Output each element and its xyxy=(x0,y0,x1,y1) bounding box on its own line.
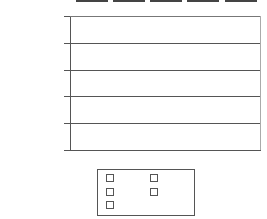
plot-area xyxy=(70,16,261,151)
y-axis-label xyxy=(14,29,32,139)
gridline-60 xyxy=(70,96,260,97)
bar-2003 xyxy=(76,0,108,2)
bar-2007 xyxy=(225,0,257,2)
tick-mark xyxy=(64,150,70,151)
gridline-30 xyxy=(70,123,260,124)
plot-frame-right xyxy=(260,16,261,150)
plot-frame-top xyxy=(70,16,260,17)
legend-swatch xyxy=(150,188,158,196)
bar-2006 xyxy=(187,0,219,2)
legend-item-2003 xyxy=(106,174,120,182)
legend-item-2007 xyxy=(150,188,164,196)
tick-mark xyxy=(64,16,70,17)
legend-item-2006 xyxy=(150,174,164,182)
bar-2005 xyxy=(150,0,182,2)
legend-item-2005 xyxy=(106,201,120,209)
legend-swatch xyxy=(150,174,158,182)
bar-2004 xyxy=(113,0,145,2)
gridline-120 xyxy=(70,43,260,44)
legend-swatch xyxy=(106,174,114,182)
gridline-90 xyxy=(70,70,260,71)
legend-swatch xyxy=(106,201,114,209)
legend-swatch xyxy=(106,188,114,196)
legend xyxy=(97,169,195,216)
legend-item-2004 xyxy=(106,188,120,196)
